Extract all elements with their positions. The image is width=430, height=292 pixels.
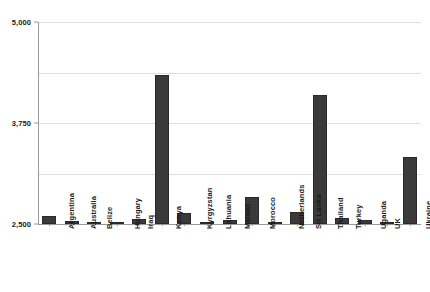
x-label-slot: Malawi bbox=[218, 226, 241, 290]
bar bbox=[403, 157, 417, 224]
x-tick-mark bbox=[230, 224, 231, 226]
bar-slot bbox=[83, 22, 106, 224]
x-label-slot: UK bbox=[376, 226, 399, 290]
x-label-slot: Argentina bbox=[38, 226, 61, 290]
bar-chart: 01,2502,5003,7505,000 ArgentinaAustralia… bbox=[0, 0, 430, 292]
bar-slot bbox=[173, 22, 196, 224]
bar-slot bbox=[376, 22, 399, 224]
bar-slot bbox=[128, 22, 151, 224]
x-tick-mark bbox=[410, 224, 411, 226]
x-tick-mark bbox=[117, 224, 118, 226]
x-tick-mark bbox=[320, 224, 321, 226]
x-tick-mark bbox=[162, 224, 163, 226]
y-tick-label: 5,000 bbox=[12, 18, 38, 27]
x-tick-label: Netherlands bbox=[297, 185, 306, 229]
bar-slot bbox=[151, 22, 174, 224]
x-label-slot: Iraq bbox=[128, 226, 151, 290]
bar-series bbox=[38, 22, 421, 224]
x-label-slot: Belize bbox=[83, 226, 106, 290]
x-tick-mark bbox=[297, 224, 298, 226]
x-tick-mark bbox=[94, 224, 95, 226]
x-label-slot: Thailand bbox=[308, 226, 331, 290]
bar-slot bbox=[331, 22, 354, 224]
x-label-slot: Netherlands bbox=[263, 226, 286, 290]
bar-slot bbox=[106, 22, 129, 224]
x-tick-mark bbox=[252, 224, 253, 226]
x-tick-mark bbox=[72, 224, 73, 226]
bar-slot bbox=[353, 22, 376, 224]
bar bbox=[42, 216, 56, 224]
x-label-slot: Uganda bbox=[353, 226, 376, 290]
x-tick-mark bbox=[387, 224, 388, 226]
x-label-slot: Hungary bbox=[106, 226, 129, 290]
x-tick-label: Kyrgyzstan bbox=[205, 188, 214, 229]
x-label-slot: Australia bbox=[61, 226, 84, 290]
plot-area: 01,2502,5003,7505,000 bbox=[38, 22, 421, 224]
x-label-slot: Sri Lanka bbox=[286, 226, 309, 290]
x-tick-mark bbox=[49, 224, 50, 226]
x-tick-mark bbox=[275, 224, 276, 226]
x-tick-label: Morocco bbox=[268, 197, 277, 229]
x-label-slot: Lithuania bbox=[196, 226, 219, 290]
x-tick-mark bbox=[342, 224, 343, 226]
y-tick-label: 2,500 bbox=[12, 220, 38, 229]
x-label-slot: Kyrgyzstan bbox=[173, 226, 196, 290]
x-label-slot: Kenya bbox=[151, 226, 174, 290]
x-label-slot: Turkey bbox=[331, 226, 354, 290]
bar bbox=[155, 75, 169, 224]
x-tick-mark bbox=[184, 224, 185, 226]
bar-slot bbox=[218, 22, 241, 224]
x-tick-mark bbox=[139, 224, 140, 226]
x-tick-label: Ukraine bbox=[424, 201, 430, 229]
bar-slot bbox=[263, 22, 286, 224]
y-tick-label: 3,750 bbox=[12, 119, 38, 128]
x-label-slot: Ukraine bbox=[399, 226, 422, 290]
bar-slot bbox=[241, 22, 264, 224]
x-label-slot: Morocco bbox=[241, 226, 264, 290]
y-axis-line bbox=[38, 22, 39, 225]
bar-slot bbox=[38, 22, 61, 224]
x-axis-labels: ArgentinaAustraliaBelizeHungaryIraqKenya… bbox=[38, 226, 421, 290]
x-tick-label: Australia bbox=[88, 196, 97, 229]
bar-slot bbox=[399, 22, 422, 224]
x-tick-mark bbox=[365, 224, 366, 226]
x-tick-mark bbox=[207, 224, 208, 226]
